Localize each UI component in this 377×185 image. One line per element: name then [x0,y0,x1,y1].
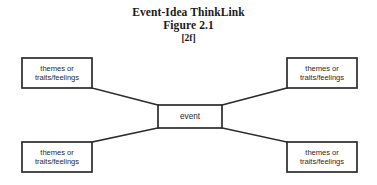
figure-canvas: Event-Idea ThinkLink Figure 2.1 [2f] the… [0,0,377,185]
node-label-event: event [158,105,222,128]
connector-bottom-right [222,128,287,142]
node-label-bottom-left: themes or traits/feelings [22,142,92,172]
node-label-top-right: themes or traits/feelings [287,58,357,88]
node-label-top-left: themes or traits/feelings [22,58,92,88]
connector-top-left [92,88,158,105]
connector-bottom-left [92,128,158,142]
connector-top-right [222,88,287,105]
node-label-bottom-right: themes or traits/feelings [287,142,357,172]
